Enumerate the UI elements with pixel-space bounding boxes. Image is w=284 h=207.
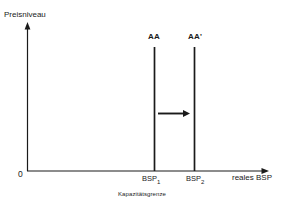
tick-label-bsp1-subscript: 1	[157, 179, 160, 185]
y-axis	[25, 22, 31, 171]
series-label-aa-text: AA	[148, 32, 160, 41]
shift-arrow-icon	[158, 110, 190, 117]
tick-label-bsp2: BSP2	[186, 175, 204, 183]
tick-label-bsp2-base: BSP	[186, 174, 201, 183]
origin-label: 0	[18, 170, 23, 179]
chart-figure: Preisniveau reales BSP 0 AA AA' BSP1 BSP…	[0, 0, 284, 207]
series-label-aa: AA	[148, 33, 160, 41]
series-label-prime-mark: '	[200, 32, 202, 41]
tick-label-bsp1: BSP1	[142, 175, 160, 183]
series-label-aa-prime: AA'	[188, 33, 202, 41]
capacity-limit-note: Kapazitätsgrenze	[118, 191, 166, 197]
tick-label-bsp1-base: BSP	[142, 174, 157, 183]
y-axis-arrowhead	[25, 22, 31, 30]
y-axis-label: Preisniveau	[4, 11, 46, 19]
shift-arrow-head	[183, 110, 190, 117]
series-label-aa-prime-text: AA	[188, 32, 200, 41]
tick-label-bsp2-subscript: 2	[201, 179, 204, 185]
x-axis-label: reales BSP	[232, 174, 272, 182]
